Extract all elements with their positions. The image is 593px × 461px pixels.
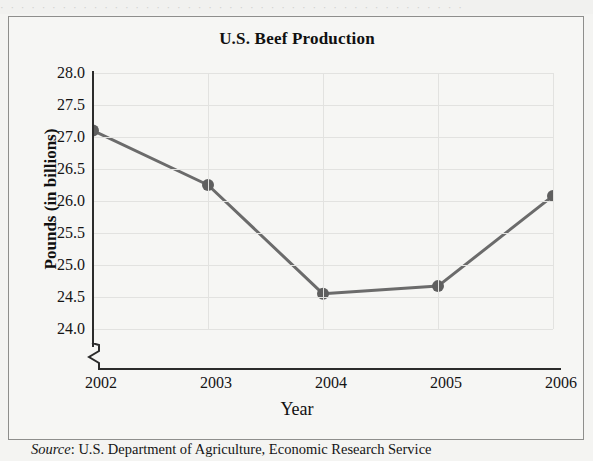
chart-title: U.S. Beef Production [9, 29, 585, 49]
gridline-vertical [208, 73, 209, 329]
x-axis-tick-label: 2003 [181, 375, 251, 391]
x-axis-tick-label: 2002 [66, 375, 136, 391]
page-top-text-strip: · · · · · · · · · · · · · · · · · · · · … [0, 0, 593, 14]
axis-break-zigzag-icon [83, 343, 113, 373]
x-axis-line [101, 368, 561, 370]
gridline-vertical [438, 73, 439, 329]
x-axis-tick-labels: 20022003200420052006 [9, 375, 585, 397]
gridline-vertical [323, 73, 324, 329]
y-axis-tick-label: 24.0 [39, 321, 85, 337]
y-axis-tick-label: 27.0 [39, 129, 85, 145]
page-ghost-text: · · · · · · · · · · · · · · · · · · · · … [0, 1, 464, 13]
x-axis-tick-label: 2005 [411, 375, 481, 391]
source-note: Source: U.S. Department of Agriculture, … [31, 441, 432, 458]
y-axis-tick-label: 27.5 [39, 97, 85, 113]
y-axis-line [92, 71, 94, 347]
y-axis-tick-label: 26.5 [39, 161, 85, 177]
y-axis-tick-label: 25.5 [39, 225, 85, 241]
source-label: Source [31, 441, 71, 457]
y-axis-tick-label: 25.0 [39, 257, 85, 273]
plot-area [93, 73, 553, 329]
gridline-vertical [553, 73, 554, 329]
source-text: U.S. Department of Agriculture, Economic… [78, 441, 431, 457]
x-axis-tick-label: 2006 [526, 375, 593, 391]
y-axis-tick-label: 24.5 [39, 289, 85, 305]
x-axis-tick-label: 2004 [296, 375, 366, 391]
chart-figure: U.S. Beef Production Pounds (in billions… [8, 16, 584, 440]
y-axis-tick-label: 28.0 [39, 65, 85, 81]
y-axis-tick-label: 26.0 [39, 193, 85, 209]
x-axis-title: Year [9, 399, 585, 420]
gridline-horizontal [93, 329, 553, 330]
